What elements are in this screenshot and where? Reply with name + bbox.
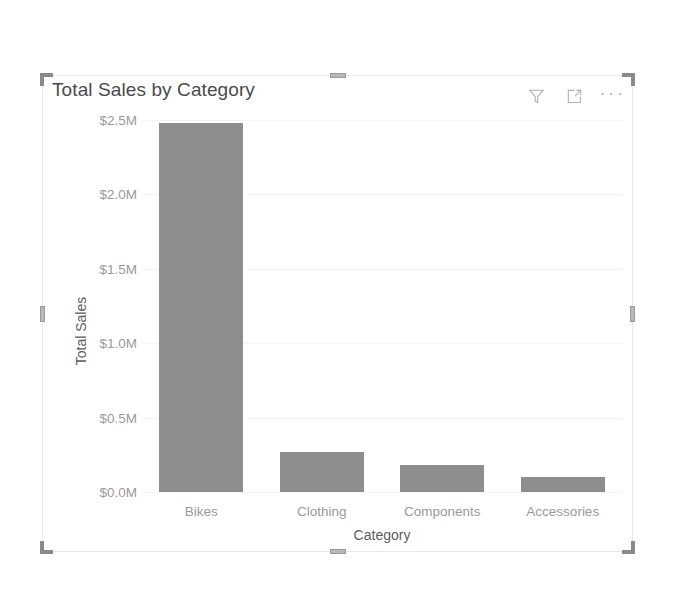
visual-header-actions: ··· (526, 82, 623, 111)
handle-bottom-right[interactable] (622, 541, 635, 554)
y-axis-tick-label: $0.0M (99, 485, 137, 500)
y-axis-tick-labels: $0.0M$0.5M$1.0M$1.5M$2.0M$2.5M (69, 110, 137, 551)
x-axis-tick-label: Components (382, 504, 503, 519)
bar-slot: Components (382, 120, 503, 492)
handle-top-center[interactable] (330, 73, 346, 78)
bar-bikes[interactable] (159, 123, 243, 492)
visual-title: Total Sales by Category (52, 79, 255, 101)
more-options-icon[interactable]: ··· (602, 82, 623, 111)
handle-middle-right[interactable] (630, 306, 635, 322)
bar-slot: Bikes (141, 120, 262, 492)
bar-clothing[interactable] (280, 452, 364, 492)
plot-area: BikesClothingComponentsAccessories (141, 120, 623, 492)
handle-top-left[interactable] (40, 73, 53, 86)
y-axis-tick-label: $2.0M (99, 187, 137, 202)
focus-mode-icon[interactable] (564, 86, 585, 107)
handle-bottom-left[interactable] (40, 541, 53, 554)
bar-slot: Accessories (503, 120, 624, 492)
filter-icon[interactable] (526, 86, 547, 107)
bar-accessories[interactable] (521, 477, 605, 492)
handle-middle-left[interactable] (40, 306, 45, 322)
y-axis-tick-label: $0.5M (99, 410, 137, 425)
x-axis-tick-label: Clothing (262, 504, 383, 519)
bar-slot: Clothing (262, 120, 383, 492)
bar-components[interactable] (400, 465, 484, 492)
y-axis-tick-label: $2.5M (99, 113, 137, 128)
y-axis-tick-label: $1.0M (99, 336, 137, 351)
handle-bottom-center[interactable] (330, 549, 346, 554)
y-axis-tick-label: $1.5M (99, 261, 137, 276)
handle-top-right[interactable] (622, 73, 635, 86)
x-axis-tick-label: Accessories (503, 504, 624, 519)
gridline (141, 492, 623, 493)
x-axis-title: Category (141, 527, 623, 543)
chart-plot-wrapper: Total Sales $0.0M$0.5M$1.0M$1.5M$2.0M$2.… (43, 110, 632, 551)
bar-series: BikesClothingComponentsAccessories (141, 120, 623, 492)
x-axis-tick-label: Bikes (141, 504, 262, 519)
visual-header: Total Sales by Category ··· (43, 76, 632, 110)
power-bi-visual-container[interactable]: Total Sales by Category ··· Total Sales … (42, 75, 633, 552)
